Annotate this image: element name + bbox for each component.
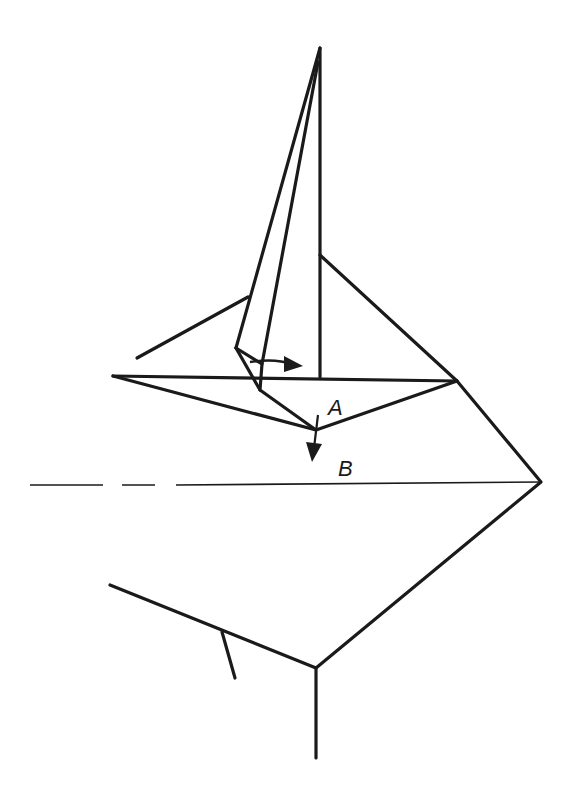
label-a: A (326, 395, 343, 420)
bottom-small-tick (222, 632, 235, 678)
flap-outer-edge (236, 48, 320, 348)
fold-down-arrow (306, 415, 322, 462)
reference-line-b-solid (176, 482, 541, 485)
horizontal-edge (113, 376, 457, 381)
origami-diagram: A B (0, 0, 571, 797)
label-b: B (338, 456, 353, 481)
swing-right-arrow (250, 356, 303, 372)
flap-inner-edge (262, 62, 318, 364)
left-wing-edge (137, 297, 248, 358)
lower-v-edge (113, 376, 457, 430)
bottom-left-edge (110, 585, 316, 668)
